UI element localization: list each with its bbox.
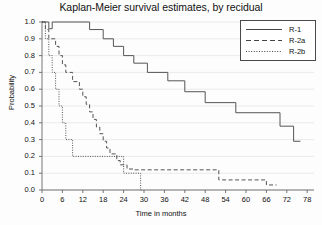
y-tick-label: 0.3 xyxy=(13,135,35,144)
x-tick-label: 48 xyxy=(195,195,215,204)
y-tick-label: 0.6 xyxy=(13,84,35,93)
x-tick-label: 0 xyxy=(32,195,52,204)
y-tick-label: 0.8 xyxy=(13,51,35,60)
x-tick-label: 42 xyxy=(175,195,195,204)
x-tick-label: 54 xyxy=(216,195,236,204)
x-tick-label: 24 xyxy=(114,195,134,204)
x-tick-label: 78 xyxy=(297,195,317,204)
legend-line-dashed-icon xyxy=(244,36,284,45)
y-tick-label: 0.2 xyxy=(13,151,35,160)
y-tick-label: 0.5 xyxy=(13,101,35,110)
chart-legend: R-1 R-2a R-2b xyxy=(240,20,316,61)
x-tick-label: 60 xyxy=(236,195,256,204)
legend-label-r1: R-1 xyxy=(284,25,301,34)
x-tick-label: 12 xyxy=(73,195,93,204)
y-tick-label: 0.7 xyxy=(13,67,35,76)
legend-label-r2a: R-2a xyxy=(284,36,305,45)
x-tick-label: 30 xyxy=(134,195,154,204)
y-tick-label: 0.1 xyxy=(13,168,35,177)
legend-line-dotted-icon xyxy=(244,47,284,56)
kaplan-meier-chart: Kaplan-Meier survival estimates, by reci… xyxy=(0,0,322,225)
legend-item-r1: R-1 xyxy=(244,24,312,35)
legend-line-solid-icon xyxy=(244,25,284,34)
x-tick-label: 72 xyxy=(277,195,297,204)
x-tick-label: 36 xyxy=(154,195,174,204)
x-tick-label: 66 xyxy=(256,195,276,204)
legend-item-r2a: R-2a xyxy=(244,35,312,46)
legend-label-r2b: R-2b xyxy=(284,47,305,56)
y-tick-label: 0.0 xyxy=(13,185,35,194)
y-tick-label: 1.0 xyxy=(13,17,35,26)
legend-item-r2b: R-2b xyxy=(244,46,312,57)
x-tick-label: 6 xyxy=(52,195,72,204)
y-tick-label: 0.9 xyxy=(13,34,35,43)
x-tick-label: 18 xyxy=(93,195,113,204)
y-tick-label: 0.4 xyxy=(13,118,35,127)
x-axis-title: Time in months xyxy=(0,209,322,218)
